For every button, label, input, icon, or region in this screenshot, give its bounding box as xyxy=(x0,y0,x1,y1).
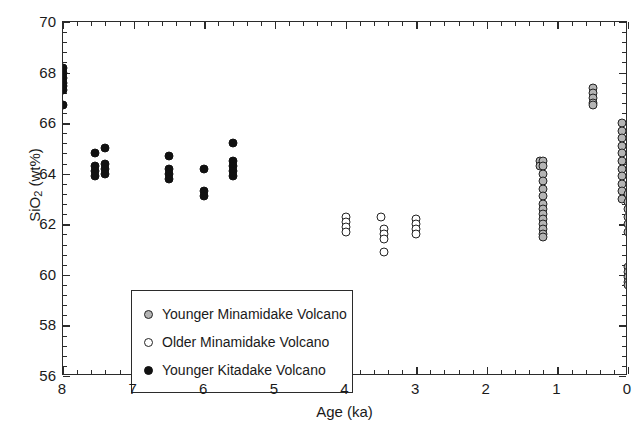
axis-tick xyxy=(459,370,460,374)
axis-tick xyxy=(430,370,431,374)
axis-tick xyxy=(622,62,626,63)
axis-tick xyxy=(63,325,70,326)
axis-tick xyxy=(148,22,149,26)
axis-tick xyxy=(586,370,587,374)
data-point xyxy=(380,248,389,257)
axis-tick xyxy=(622,93,626,94)
data-point xyxy=(101,169,110,178)
legend-marker-icon xyxy=(144,366,153,375)
axis-tick xyxy=(63,305,67,306)
x-tick-label: 4 xyxy=(340,380,348,397)
axis-tick xyxy=(77,370,78,374)
data-point xyxy=(164,174,173,183)
axis-tick xyxy=(622,52,626,53)
data-point xyxy=(380,235,389,244)
axis-tick xyxy=(529,22,530,26)
y-tick-label: 58 xyxy=(39,316,56,333)
axis-tick xyxy=(63,133,67,134)
axis-tick xyxy=(543,370,544,374)
axis-tick xyxy=(459,22,460,26)
scatter-plot-figure: Younger Minamidake VolcanoOlder Minamida… xyxy=(0,0,644,431)
axis-tick xyxy=(63,234,67,235)
legend-item: Younger Minamidake Volcano xyxy=(132,300,352,328)
data-point xyxy=(63,101,68,110)
axis-tick xyxy=(388,22,389,26)
axis-tick xyxy=(331,22,332,26)
axis-tick xyxy=(275,22,276,29)
axis-tick xyxy=(416,22,417,29)
axis-tick xyxy=(63,366,67,367)
y-tick-label: 70 xyxy=(39,13,56,30)
data-point xyxy=(200,192,209,201)
axis-tick xyxy=(233,22,234,26)
axis-tick xyxy=(473,22,474,26)
axis-tick xyxy=(63,285,67,286)
axis-tick xyxy=(120,22,121,26)
axis-tick xyxy=(360,22,361,26)
axis-tick xyxy=(619,325,626,326)
axis-tick xyxy=(204,22,205,29)
axis-tick xyxy=(63,22,70,23)
axis-tick xyxy=(628,22,629,29)
legend-item-label: Younger Minamidake Volcano xyxy=(162,306,347,322)
axis-tick xyxy=(614,370,615,374)
axis-tick xyxy=(247,22,248,26)
x-tick-label: 0 xyxy=(623,380,631,397)
axis-tick xyxy=(63,255,67,256)
axis-tick xyxy=(473,370,474,374)
axis-tick xyxy=(303,22,304,26)
axis-tick xyxy=(91,370,92,374)
axis-tick xyxy=(388,370,389,374)
axis-tick xyxy=(622,42,626,43)
legend-item-label: Younger Kitadake Volcano xyxy=(162,362,326,378)
axis-tick xyxy=(557,367,558,374)
axis-tick xyxy=(515,22,516,26)
axis-tick xyxy=(501,370,502,374)
axis-tick xyxy=(622,255,626,256)
data-point xyxy=(412,230,421,239)
axis-tick xyxy=(402,22,403,26)
x-tick-label: 5 xyxy=(270,380,278,397)
axis-tick xyxy=(529,370,530,374)
axis-tick xyxy=(63,143,67,144)
data-point xyxy=(164,152,173,161)
axis-tick xyxy=(218,22,219,26)
axis-tick xyxy=(619,376,626,377)
data-point xyxy=(539,232,548,241)
axis-tick xyxy=(63,42,67,43)
axis-tick xyxy=(515,370,516,374)
axis-tick xyxy=(63,315,67,316)
axis-tick xyxy=(91,22,92,26)
axis-tick xyxy=(63,336,67,337)
axis-tick xyxy=(622,83,626,84)
axis-tick xyxy=(501,22,502,26)
axis-tick xyxy=(162,22,163,26)
axis-tick xyxy=(134,22,135,29)
axis-tick xyxy=(622,245,626,246)
axis-tick xyxy=(63,376,70,377)
axis-tick xyxy=(557,22,558,29)
y-axis-title-base: SiO xyxy=(26,197,43,222)
x-tick-label: 2 xyxy=(482,380,490,397)
axis-tick xyxy=(622,103,626,104)
axis-tick xyxy=(63,52,67,53)
axis-tick xyxy=(622,295,626,296)
axis-tick xyxy=(77,22,78,26)
axis-tick xyxy=(600,22,601,26)
legend-marker-icon xyxy=(144,310,153,319)
x-tick-label: 7 xyxy=(128,380,136,397)
axis-tick xyxy=(63,367,64,374)
y-axis-title: SiO2 (wt%) xyxy=(26,75,44,295)
axis-tick xyxy=(572,370,573,374)
axis-tick xyxy=(622,113,626,114)
data-point xyxy=(624,280,627,289)
axis-tick xyxy=(416,367,417,374)
axis-tick xyxy=(622,346,626,347)
axis-tick xyxy=(63,295,67,296)
axis-tick xyxy=(374,22,375,26)
axis-tick xyxy=(63,204,67,205)
y-axis-title-units: (wt%) xyxy=(26,148,43,191)
axis-tick xyxy=(444,22,445,26)
axis-tick xyxy=(190,22,191,26)
axis-tick xyxy=(622,366,626,367)
